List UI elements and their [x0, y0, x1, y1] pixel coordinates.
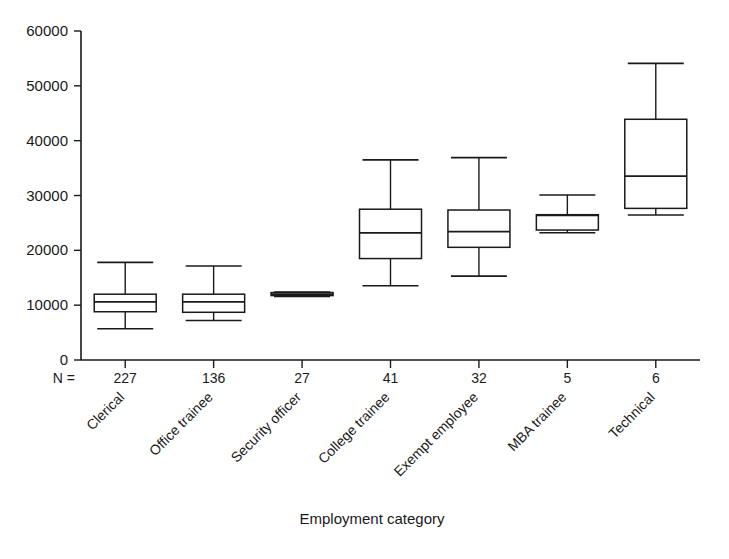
category-label: Clerical — [83, 389, 127, 433]
n-count-value: 227 — [114, 370, 138, 386]
y-axis: 0100002000030000400005000060000 — [26, 22, 81, 368]
y-tick-label: 60000 — [26, 22, 68, 39]
y-tick-label: 50000 — [26, 77, 68, 94]
box-iqr — [360, 209, 422, 258]
n-count-value: 41 — [383, 370, 399, 386]
y-tick-label: 10000 — [26, 296, 68, 313]
y-tick-label: 20000 — [26, 241, 68, 258]
box-plot-item — [536, 195, 598, 233]
x-axis — [81, 360, 700, 368]
category-label: MBA trainee — [504, 389, 569, 454]
box-plot-item — [360, 160, 422, 286]
boxplot-chart: 0100002000030000400005000060000 N = 2271… — [0, 0, 729, 559]
n-prefix-label: N = — [53, 370, 75, 386]
box-plot-item — [94, 262, 156, 328]
box-iqr — [448, 210, 510, 247]
x-tick-group — [125, 360, 656, 368]
box-iqr — [625, 119, 687, 208]
category-labels: ClericalOffice traineeSecurity officerCo… — [83, 389, 658, 480]
category-label: Security officer — [228, 389, 305, 466]
n-count-value: 5 — [563, 370, 571, 386]
x-axis-title: Employment category — [299, 510, 445, 527]
y-tick-label: 40000 — [26, 132, 68, 149]
box-iqr — [94, 294, 156, 312]
box-iqr — [536, 215, 598, 230]
n-count-row: N = 22713627413256 — [53, 370, 660, 386]
y-tick-group: 0100002000030000400005000060000 — [26, 22, 81, 368]
category-label: Exempt employee — [390, 389, 481, 480]
box-plot-series — [94, 63, 687, 328]
y-tick-label: 0 — [60, 351, 68, 368]
category-label: Office trainee — [146, 389, 216, 459]
n-count-value: 32 — [471, 370, 487, 386]
chart-canvas: 0100002000030000400005000060000 N = 2271… — [0, 0, 729, 559]
n-count-value: 136 — [202, 370, 226, 386]
category-label: College trainee — [315, 389, 393, 467]
y-tick-label: 30000 — [26, 187, 68, 204]
box-plot-item — [448, 158, 510, 276]
n-count-value: 27 — [294, 370, 310, 386]
category-label: Technical — [605, 389, 658, 442]
box-plot-item — [625, 63, 687, 215]
n-count-value: 6 — [652, 370, 660, 386]
box-plot-item — [183, 266, 245, 321]
box-iqr — [183, 294, 245, 312]
box-plot-item — [271, 292, 333, 296]
